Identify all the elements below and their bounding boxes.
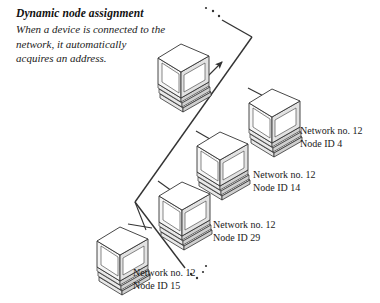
node-label-node-id: Node ID 29	[213, 231, 276, 244]
node-label-node-id: Node ID 4	[300, 137, 363, 150]
node-label-network: Network no. 12	[300, 125, 363, 136]
node-label-network: Network no. 12	[213, 219, 276, 230]
computer-isometric-icon	[197, 132, 250, 200]
computer-isometric-icon	[249, 89, 302, 157]
node-label-network: Network no. 12	[253, 169, 316, 180]
node-label-node-id-14: Network no. 12 Node ID 14	[253, 168, 316, 194]
figure-caption: Dynamic node assignment When a device is…	[16, 6, 196, 66]
node-label-node-id-4: Network no. 12 Node ID 4	[300, 124, 363, 150]
node-label-node-id: Node ID 14	[253, 181, 316, 194]
caption-body: When a device is connected to the networ…	[16, 22, 166, 66]
caption-title: Dynamic node assignment	[16, 6, 196, 21]
computer-isometric-icon	[159, 182, 212, 250]
node-label-node-id-15: Network no. 12 Node ID 15	[133, 266, 196, 292]
figure-canvas: Dynamic node assignment When a device is…	[0, 0, 380, 303]
stub-node-id-15-b	[128, 224, 152, 228]
node-label-network: Network no. 12	[133, 267, 196, 278]
node-label-node-id-29: Network no. 12 Node ID 29	[213, 218, 276, 244]
node-label-node-id: Node ID 15	[133, 279, 196, 292]
